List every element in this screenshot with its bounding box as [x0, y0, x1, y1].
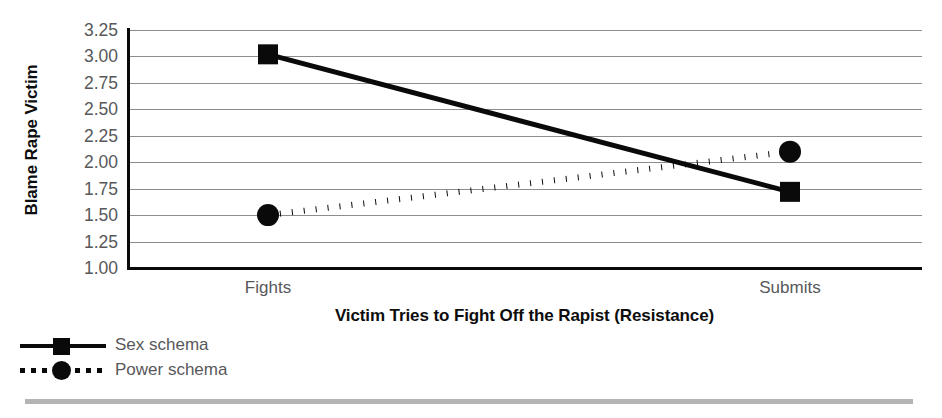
- data-point-square: [780, 182, 800, 202]
- x-tick-label-fights: Fights: [188, 278, 348, 298]
- square-marker-icon: [53, 338, 70, 355]
- legend-item-sex-schema: Sex schema: [20, 332, 227, 357]
- data-point-square: [258, 44, 278, 64]
- footer-divider: [25, 399, 913, 404]
- data-point-circle: [257, 204, 279, 226]
- legend-key-dotted-circle: [20, 359, 106, 381]
- series-line-2: [268, 152, 790, 215]
- legend-label: Power schema: [115, 360, 227, 380]
- series-line-1: [268, 54, 790, 192]
- x-tick-label-submits: Submits: [710, 278, 870, 298]
- legend-item-power-schema: Power schema: [20, 357, 227, 382]
- x-axis-title: Victim Tries to Fight Off the Rapist (Re…: [127, 306, 922, 326]
- chart-figure: Blame Rape Victim 3.25 3.00 2.75 2.50 2.…: [0, 0, 942, 418]
- circle-marker-icon: [52, 361, 71, 380]
- data-point-circle: [779, 141, 801, 163]
- legend-label: Sex schema: [115, 335, 209, 355]
- chart-legend: Sex schema Power schema: [20, 332, 227, 382]
- legend-key-solid-square: [20, 334, 106, 356]
